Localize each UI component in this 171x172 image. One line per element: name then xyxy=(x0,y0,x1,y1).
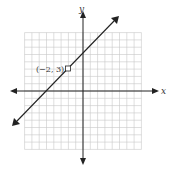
coordinate-plane: x y (−2, 3) xyxy=(0,0,171,172)
x-axis-left-arrow-icon xyxy=(10,88,17,94)
x-axis-label: x xyxy=(161,86,166,96)
y-axis-label: y xyxy=(78,4,85,14)
point-label: (−2, 3) xyxy=(36,65,64,74)
point-marker-icon xyxy=(66,66,71,71)
x-axis-right-arrow-icon xyxy=(152,88,159,94)
y-axis-down-arrow-icon xyxy=(80,158,86,165)
